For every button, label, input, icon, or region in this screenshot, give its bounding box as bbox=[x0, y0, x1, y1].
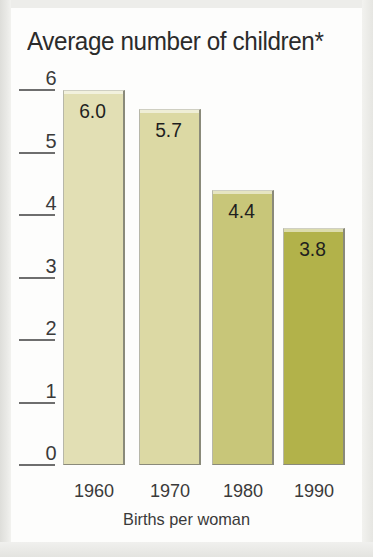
y-axis-tick: 5 bbox=[19, 153, 63, 154]
y-axis-tick-line bbox=[19, 152, 55, 154]
figure-root: Average number of children* 6543210 6.05… bbox=[0, 0, 373, 557]
page-margin-top bbox=[0, 0, 373, 8]
y-axis-tick: 1 bbox=[19, 403, 63, 404]
y-axis-tick-label: 2 bbox=[46, 317, 57, 338]
page-margin-left bbox=[0, 0, 11, 557]
y-axis-tick-line bbox=[19, 339, 55, 341]
bar-value-label: 3.8 bbox=[285, 239, 340, 259]
page-margin-right bbox=[362, 0, 373, 557]
page-margin-bottom bbox=[0, 542, 373, 557]
y-axis-tick: 0 bbox=[19, 465, 63, 466]
y-axis-tick-line bbox=[19, 464, 55, 466]
x-axis-category-label: 1980 bbox=[214, 481, 273, 500]
y-axis-tick: 6 bbox=[19, 90, 63, 91]
y-axis-tick-line bbox=[19, 402, 55, 404]
bar-value-label: 4.4 bbox=[214, 201, 269, 221]
x-axis-category-label: 1990 bbox=[285, 481, 344, 500]
y-axis-tick-line bbox=[19, 277, 55, 279]
y-axis-tick-label: 4 bbox=[46, 192, 57, 213]
bar-value-label: 6.0 bbox=[65, 101, 120, 121]
x-axis-category-label: 1970 bbox=[141, 481, 200, 500]
y-axis-tick-label: 1 bbox=[46, 380, 57, 401]
y-axis-tick-label: 5 bbox=[46, 130, 57, 151]
y-axis-tick: 4 bbox=[19, 215, 63, 216]
y-axis-tick: 3 bbox=[19, 278, 63, 279]
bar-value-label: 5.7 bbox=[141, 120, 196, 140]
y-axis-tick-line bbox=[19, 89, 55, 91]
chart-card: Average number of children* 6543210 6.05… bbox=[11, 8, 362, 542]
bar: 3.8 bbox=[283, 228, 345, 466]
bar: 4.4 bbox=[212, 190, 274, 465]
bar: 5.7 bbox=[139, 109, 201, 465]
y-axis-tick-label: 3 bbox=[46, 255, 57, 276]
y-axis-tick-line bbox=[19, 214, 55, 216]
y-axis-tick-label: 6 bbox=[46, 67, 57, 88]
y-axis-tick-label: 0 bbox=[46, 442, 57, 463]
bar: 6.0 bbox=[63, 90, 125, 465]
plot-area: 6543210 6.05.74.43.8 1960197019801990 Bi… bbox=[11, 8, 362, 542]
x-axis-category-label: 1960 bbox=[65, 481, 124, 500]
y-axis-tick: 2 bbox=[19, 340, 63, 341]
x-axis-title: Births per woman bbox=[18, 510, 355, 529]
